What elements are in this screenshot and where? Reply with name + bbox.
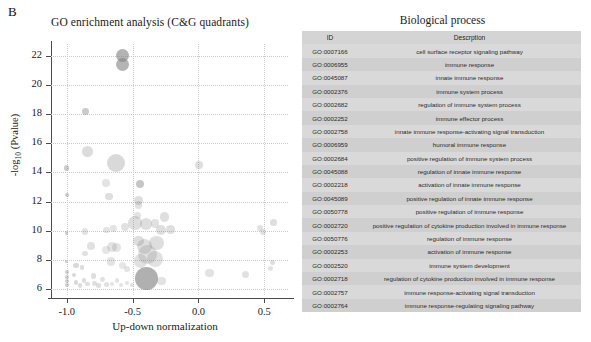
plot-area bbox=[51, 44, 288, 295]
table-row: GO:0045087innate immune response bbox=[302, 71, 581, 84]
data-point-bubble bbox=[102, 246, 110, 254]
cell-go-description: immune system development bbox=[358, 259, 581, 272]
data-point-bubble bbox=[205, 269, 213, 277]
data-point-bubble bbox=[125, 281, 129, 285]
data-point-bubble bbox=[135, 201, 143, 209]
data-point-bubble bbox=[136, 180, 144, 188]
data-point-bubble bbox=[119, 283, 123, 287]
data-point-bubble bbox=[147, 251, 163, 267]
column-header-id: ID bbox=[302, 31, 358, 44]
data-point-bubble bbox=[157, 277, 165, 285]
cell-go-description: humoral immune response bbox=[358, 138, 581, 151]
table-row: GO:0002720positive regulation of cytokin… bbox=[302, 218, 581, 231]
x-axis-spine bbox=[48, 298, 294, 299]
x-tick-label: -1.0 bbox=[47, 306, 87, 317]
cell-go-id: GO:0002253 bbox=[302, 245, 358, 258]
table-row: GO:0002376immune system process bbox=[302, 85, 581, 98]
cell-go-description: positive regulation of innate immune res… bbox=[358, 192, 581, 205]
data-point-bubble bbox=[195, 161, 203, 169]
data-point-bubble bbox=[130, 283, 134, 287]
table-header-row: ID Descrption bbox=[302, 31, 581, 44]
cell-go-id: GO:0045087 bbox=[302, 71, 358, 84]
x-tick-mark bbox=[264, 298, 265, 303]
cell-go-id: GO:0002757 bbox=[302, 285, 358, 298]
data-point-bubble bbox=[82, 146, 93, 157]
data-point-bubble bbox=[116, 58, 129, 71]
data-point-bubble bbox=[65, 193, 69, 197]
table-row: GO:0050776regulation of immune response bbox=[302, 232, 581, 245]
data-point-bubble bbox=[104, 282, 109, 287]
table-row: GO:0006955immune response bbox=[302, 58, 581, 71]
data-point-bubble bbox=[135, 267, 158, 290]
cell-go-id: GO:0007166 bbox=[302, 44, 358, 57]
gridline-horizontal bbox=[51, 143, 288, 144]
data-point-bubble bbox=[65, 270, 69, 274]
data-point-bubble bbox=[103, 227, 110, 234]
cell-go-id: GO:0045089 bbox=[302, 192, 358, 205]
data-point-bubble bbox=[270, 219, 277, 226]
table-row: GO:0002252immune effector process bbox=[302, 111, 581, 124]
go-enrichment-bubble-chart: GO enrichment analysis (C&G quadrants) 6… bbox=[0, 0, 300, 342]
cell-go-description: immune response-regulating signaling pat… bbox=[358, 299, 581, 312]
chart-title: GO enrichment analysis (C&G quadrants) bbox=[0, 16, 300, 28]
cell-go-id: GO:0002718 bbox=[302, 272, 358, 285]
y-tick-label: 22 bbox=[14, 50, 42, 61]
data-point-bubble bbox=[82, 228, 88, 234]
y-tick-label: 10 bbox=[14, 225, 42, 236]
data-point-bubble bbox=[268, 266, 273, 271]
y-tick-mark bbox=[46, 114, 51, 115]
table-row: GO:0045088regulation of innate immune re… bbox=[302, 165, 581, 178]
x-tick-label: -0.5 bbox=[113, 306, 153, 317]
gridline-horizontal bbox=[51, 260, 288, 261]
data-point-bubble bbox=[134, 254, 148, 268]
table-row: GO:0002758innate immune response-activat… bbox=[302, 125, 581, 138]
data-point-bubble bbox=[166, 225, 175, 234]
y-tick-mark bbox=[46, 143, 51, 144]
data-point-bubble bbox=[82, 251, 88, 257]
table-row: GO:0006959humoral immune response bbox=[302, 138, 581, 151]
data-point-bubble bbox=[134, 212, 141, 219]
cell-go-description: regulation of immune system process bbox=[358, 98, 581, 111]
table-row: GO:0002218activation of innate immune re… bbox=[302, 178, 581, 191]
cell-go-description: positive regulation of immune response bbox=[358, 205, 581, 218]
gridline-horizontal bbox=[51, 56, 288, 57]
data-point-bubble bbox=[115, 278, 119, 282]
cell-go-description: activation of innate immune response bbox=[358, 178, 581, 191]
table-row: GO:0002757immune response-activating sig… bbox=[302, 285, 581, 298]
data-point-bubble bbox=[64, 165, 69, 170]
data-point-bubble bbox=[80, 265, 85, 270]
gridline-horizontal bbox=[51, 172, 288, 173]
cell-go-description: regulation of immune response bbox=[358, 232, 581, 245]
cell-go-id: GO:0002252 bbox=[302, 111, 358, 124]
table-row: GO:0002718regulation of cytokine product… bbox=[302, 272, 581, 285]
cell-go-id: GO:0002520 bbox=[302, 259, 358, 272]
table-body: GO:0007166cell surface receptor signalin… bbox=[302, 44, 581, 312]
data-point-bubble bbox=[78, 283, 83, 288]
cell-go-description: activation of immune response bbox=[358, 245, 581, 258]
cell-go-id: GO:0002758 bbox=[302, 125, 358, 138]
y-tick-label: 8 bbox=[14, 254, 42, 265]
cell-go-id: GO:0045088 bbox=[302, 165, 358, 178]
cell-go-description: innate immune response-activating signal… bbox=[358, 125, 581, 138]
data-point-bubble bbox=[270, 260, 275, 265]
gridline-vertical bbox=[198, 44, 199, 295]
data-point-bubble bbox=[102, 179, 110, 187]
cell-go-id: GO:0006955 bbox=[302, 58, 358, 71]
data-point-bubble bbox=[107, 154, 125, 172]
gridline-horizontal bbox=[51, 202, 288, 203]
cell-go-description: immune effector process bbox=[358, 111, 581, 124]
data-point-bubble bbox=[96, 283, 100, 287]
table-row: GO:0007166cell surface receptor signalin… bbox=[302, 44, 581, 57]
cell-go-description: immune system process bbox=[358, 85, 581, 98]
x-tick-label: 0.5 bbox=[244, 306, 284, 317]
data-point-bubble bbox=[112, 243, 121, 252]
data-point-bubble bbox=[156, 225, 166, 235]
y-tick-mark bbox=[46, 85, 51, 86]
data-point-bubble bbox=[85, 282, 90, 287]
table-row: GO:0002253activation of immune response bbox=[302, 245, 581, 258]
data-point-bubble bbox=[72, 273, 76, 277]
cell-go-id: GO:0002764 bbox=[302, 299, 358, 312]
data-point-bubble bbox=[73, 263, 78, 268]
cell-go-description: cell surface receptor signaling pathway bbox=[358, 44, 581, 57]
cell-go-id: GO:0050776 bbox=[302, 232, 358, 245]
